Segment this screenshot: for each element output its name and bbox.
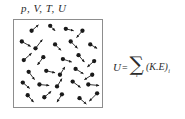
gas-molecule bbox=[76, 53, 80, 57]
gas-molecule bbox=[55, 84, 59, 88]
gas-molecule bbox=[88, 42, 92, 46]
kinetic-energy-text: (K.E) bbox=[146, 61, 168, 72]
particle-group bbox=[20, 24, 100, 104]
sigma-icon: ∑ bbox=[130, 56, 144, 73]
gas-internal-energy-figure: p, V, T, U U = ∑ i (K.E)i bbox=[0, 0, 185, 119]
gas-molecule bbox=[20, 39, 24, 43]
gas-molecule bbox=[53, 42, 57, 46]
gas-molecule bbox=[86, 82, 90, 86]
internal-energy-equation: U = ∑ i (K.E)i bbox=[113, 56, 170, 78]
gas-molecule bbox=[44, 69, 48, 73]
gas-molecule bbox=[27, 70, 31, 74]
gas-molecule bbox=[90, 73, 94, 77]
gas-molecule bbox=[22, 58, 26, 62]
gas-molecule bbox=[64, 27, 68, 31]
particle-canvas bbox=[14, 20, 102, 107]
gas-molecule bbox=[33, 46, 37, 50]
gas-molecule bbox=[73, 67, 77, 71]
gas-molecule bbox=[69, 39, 73, 43]
gas-molecule bbox=[60, 92, 64, 96]
equation-left-symbol: U bbox=[113, 61, 121, 73]
kinetic-energy-term: (K.E)i bbox=[146, 61, 170, 74]
gas-molecule bbox=[21, 80, 25, 84]
gas-molecule bbox=[71, 79, 75, 83]
gas-molecule bbox=[42, 95, 46, 99]
gas-molecule bbox=[61, 57, 65, 61]
gas-molecule bbox=[29, 29, 33, 33]
kinetic-energy-index: i bbox=[168, 68, 170, 74]
summation-index: i bbox=[136, 72, 138, 78]
gas-molecule bbox=[26, 93, 30, 97]
gas-container-box bbox=[13, 19, 103, 108]
gas-molecule bbox=[37, 82, 41, 86]
equation-operator: = bbox=[122, 62, 128, 73]
gas-molecule bbox=[95, 91, 99, 95]
summation-group: ∑ i bbox=[130, 56, 144, 78]
state-variables-label: p, V, T, U bbox=[21, 2, 67, 14]
gas-molecule bbox=[41, 55, 45, 59]
gas-molecule bbox=[80, 29, 84, 33]
gas-molecule bbox=[77, 96, 81, 100]
gas-molecule bbox=[58, 73, 62, 77]
gas-molecule bbox=[48, 24, 52, 28]
gas-molecule bbox=[92, 59, 96, 63]
